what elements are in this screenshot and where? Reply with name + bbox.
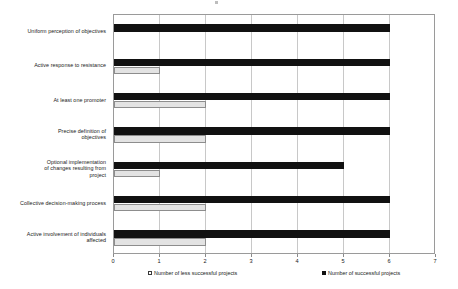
x-axis-tick-label: 6 [387, 258, 390, 264]
legend-item-successful: Number of successful projects [322, 270, 400, 276]
chart-legend: Number of less successful projects Numbe… [0, 270, 458, 282]
x-axis-tick [113, 254, 114, 257]
x-axis-tick-label: 4 [295, 258, 298, 264]
bar-successful [114, 196, 390, 204]
bar-successful [114, 24, 390, 32]
category-label: Uniform perception of objectives [27, 28, 106, 34]
bar-group [114, 118, 434, 152]
bar-group [114, 49, 434, 83]
x-axis-tick [205, 254, 206, 257]
bar-less-successful [114, 238, 206, 246]
bar-less-successful [114, 67, 160, 75]
x-axis-tick [297, 254, 298, 257]
bar-group [114, 15, 434, 49]
bar-group [114, 152, 434, 186]
plot-area [113, 14, 435, 254]
bar-successful [114, 162, 344, 170]
light-square-icon [148, 271, 152, 275]
x-axis-tick-label: 3 [249, 258, 252, 264]
bar-chart: Uniform perception of objectivesActive r… [0, 0, 458, 289]
x-axis-tick [251, 254, 252, 257]
bar-successful [114, 127, 390, 135]
category-label: Precise definition of objectives [58, 128, 106, 141]
x-axis-tick-label: 2 [203, 258, 206, 264]
x-axis-tick [389, 254, 390, 257]
legend-item-less-successful: Number of less successful projects [148, 270, 237, 276]
bar-successful [114, 93, 390, 101]
bar-less-successful [114, 170, 160, 178]
bar-successful [114, 59, 390, 67]
bar-group [114, 221, 434, 255]
category-label: Active involvement of individuals affect… [27, 231, 106, 244]
bar-less-successful [114, 204, 206, 212]
x-axis-tick-label: 7 [433, 258, 436, 264]
bar-successful [114, 230, 390, 238]
category-axis-labels: Uniform perception of objectivesActive r… [0, 14, 110, 254]
x-axis-tick [159, 254, 160, 257]
bar-group [114, 186, 434, 220]
top-artifact-mark [215, 1, 218, 4]
x-axis-tick [435, 254, 436, 257]
category-label: Optional implementation of changes resul… [44, 159, 106, 178]
bar-group [114, 84, 434, 118]
bar-less-successful [114, 101, 206, 109]
x-axis-tick-label: 5 [341, 258, 344, 264]
x-axis-tick-label: 0 [111, 258, 114, 264]
bar-less-successful [114, 135, 206, 143]
legend-label: Number of less successful projects [154, 270, 237, 276]
x-axis-tick-label: 1 [157, 258, 160, 264]
dark-square-icon [322, 271, 326, 275]
legend-label: Number of successful projects [328, 270, 400, 276]
category-label: Active response to resistance [34, 62, 106, 68]
x-axis: 01234567 [113, 254, 435, 270]
category-label: At least one promoter [53, 97, 106, 103]
category-label: Collective decision-making process [20, 200, 106, 206]
x-axis-tick [343, 254, 344, 257]
